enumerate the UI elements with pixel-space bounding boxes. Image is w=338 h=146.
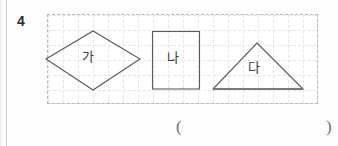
- figure-label-ga: 가: [82, 50, 94, 63]
- answer-paren-close: ): [326, 118, 332, 135]
- figures-canvas: [0, 0, 338, 146]
- figure-label-da: 다: [248, 61, 260, 74]
- figure-label-na: 나: [167, 51, 179, 64]
- answer-paren-open: (: [176, 118, 182, 135]
